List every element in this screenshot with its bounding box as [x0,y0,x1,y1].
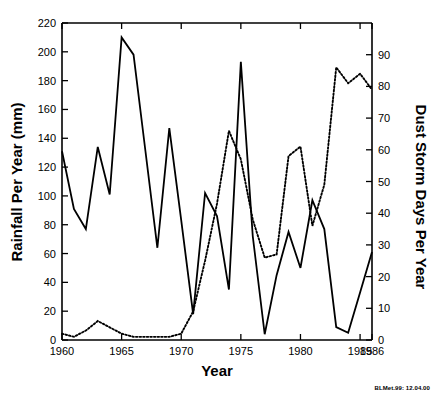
x-tick-label: 1960 [50,345,74,357]
y2-tick-label: 80 [378,80,390,92]
y-tick-label: 200 [38,46,56,58]
dust-storm-days-line [62,67,372,336]
axes [62,23,372,340]
y2-tick-label: 30 [378,239,390,251]
y2-tick-label: 20 [378,271,390,283]
y2-axis-label: Dust Storm Days Per Year [413,105,430,290]
y2-tick-label: 90 [378,49,390,61]
y2-tick-label: 70 [378,112,390,124]
y-tick-label: 180 [38,75,56,87]
x-tick-label: 1975 [229,345,253,357]
y2-tick-label: 10 [378,302,390,314]
x-tick-label: 1980 [288,345,312,357]
y-tick-label: 40 [44,276,56,288]
rainfall-dust-storm-chart: 0204060801001201401601802002200102030405… [0,0,433,401]
x-tick-label: 1965 [109,345,133,357]
x-axis-label: Year [201,362,233,379]
y-tick-label: 220 [38,17,56,29]
y2-tick-label: 60 [378,144,390,156]
y-tick-label: 100 [38,190,56,202]
y-tick-label: 80 [44,219,56,231]
tick-marks [62,23,372,340]
y-tick-label: 60 [44,248,56,260]
y-tick-label: 120 [38,161,56,173]
x-tick-label: 1970 [169,345,193,357]
y-tick-label: 20 [44,305,56,317]
figure-credit: BLMet.99: 12.04.00 [375,385,431,391]
chart-figure: 0204060801001201401601802002200102030405… [0,0,433,401]
y2-tick-label: 40 [378,207,390,219]
y2-tick-label: 50 [378,176,390,188]
y-tick-label: 140 [38,132,56,144]
rainfall-line [62,37,372,334]
y-axis-label: Rainfall Per Year (mm) [8,103,25,262]
x-tick-label: 1986 [360,345,384,357]
y-tick-label: 160 [38,103,56,115]
data-series [62,37,372,336]
